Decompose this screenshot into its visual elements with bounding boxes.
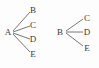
right-tree-edges — [66, 19, 83, 46]
diagram-canvas: ABCDEBCDE — [0, 0, 99, 68]
node-label-right-tree-b: B — [57, 28, 63, 37]
node-label-left-tree-e: E — [30, 50, 36, 59]
left-tree-edges — [13, 12, 30, 52]
edge-a-to-e — [13, 34, 30, 52]
edge-a-to-d — [13, 33, 30, 39]
edge-a-to-c — [13, 26, 30, 32]
node-label-left-tree-b: B — [30, 6, 36, 15]
edge-b-to-e — [66, 33, 83, 46]
node-label-left-tree-c: C — [30, 21, 36, 30]
node-label-left-tree-a: A — [5, 28, 12, 37]
node-label-right-tree-e: E — [84, 44, 90, 53]
node-label-right-tree-d: D — [84, 28, 91, 37]
node-label-left-tree-d: D — [30, 35, 37, 44]
edge-b-to-c — [66, 19, 83, 31]
edge-a-to-b — [13, 12, 30, 31]
node-label-right-tree-c: C — [84, 14, 90, 23]
